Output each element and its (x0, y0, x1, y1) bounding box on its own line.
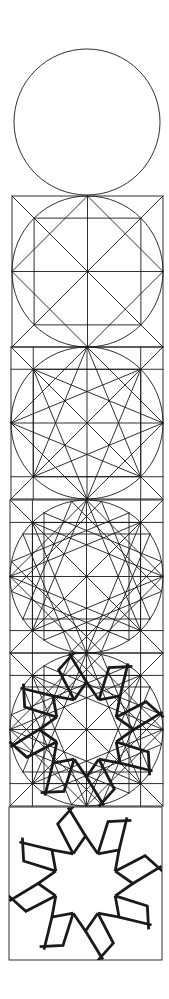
construction-line (11, 513, 129, 562)
geometric-construction-diagram (0, 0, 169, 999)
star-rosette-segment (73, 913, 98, 931)
construction-line (87, 369, 141, 499)
star-rosette-segment (52, 850, 73, 871)
construction-line (11, 369, 141, 423)
construction-line (11, 423, 141, 477)
interlace-band (9, 884, 38, 901)
construction-line (11, 591, 129, 640)
construction-line (23, 534, 72, 652)
initial-circle (14, 49, 160, 195)
panel-dense-construction (10, 500, 163, 653)
construction-line (33, 347, 87, 477)
panel-final-star-pattern (8, 806, 162, 960)
star-rosette-segment (38, 871, 56, 896)
top-circle (14, 49, 160, 195)
construction-line (101, 501, 150, 619)
construction-line (23, 501, 72, 619)
interlace-band (86, 931, 103, 960)
construction-line (87, 347, 141, 477)
construction-line (101, 534, 150, 652)
construction-line (33, 423, 163, 477)
interlace-band (133, 866, 162, 883)
star-rosette-segment (73, 836, 98, 854)
star-rosette-segment (115, 871, 133, 896)
star-rosette-segment (98, 850, 119, 871)
construction-line (33, 369, 87, 499)
panel-sixteen-point-lines (11, 347, 163, 499)
interlace-band (68, 807, 85, 836)
construction-line (33, 369, 163, 423)
panel-square-diagonals (12, 196, 163, 347)
final-pattern-bands (8, 806, 162, 960)
construction-line (44, 591, 162, 640)
star-rosette-segment (52, 896, 73, 917)
construction-line (44, 513, 162, 562)
star-rosette-segment (98, 896, 119, 917)
panel-pattern-overlay (9, 652, 163, 806)
panel-square (9, 807, 162, 960)
